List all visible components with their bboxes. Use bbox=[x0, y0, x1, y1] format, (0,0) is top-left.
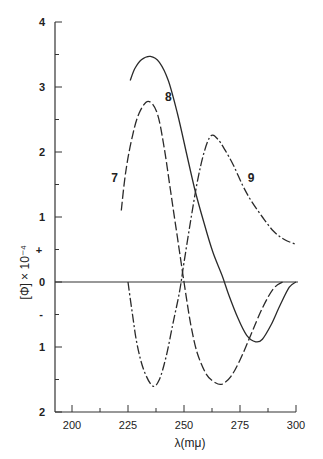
x-tick-label: 275 bbox=[231, 419, 249, 431]
y-tick-label: 1 bbox=[39, 211, 45, 223]
minus-sign: - bbox=[39, 308, 43, 320]
y-tick-label: 2 bbox=[39, 406, 45, 418]
y-tick-label: 3 bbox=[39, 81, 45, 93]
x-tick-label: 300 bbox=[287, 419, 305, 431]
curves bbox=[121, 56, 296, 386]
y-tick-label: 1 bbox=[39, 341, 45, 353]
y-tick-label: 4 bbox=[39, 16, 46, 28]
plus-sign: + bbox=[36, 244, 42, 256]
y-tick-label: 2 bbox=[39, 146, 45, 158]
curve-9 bbox=[128, 135, 296, 386]
x-tick-label: 225 bbox=[119, 419, 137, 431]
y-axis-label: [Φ] × 10⁻⁴ bbox=[18, 245, 32, 299]
curve-label-7: 7 bbox=[111, 171, 118, 185]
optical-rotatory-dispersion-chart: 4321012+-200225250275300λ(mμ)[Φ] × 10⁻⁴7… bbox=[0, 0, 323, 459]
x-tick-label: 250 bbox=[175, 419, 193, 431]
axes bbox=[55, 22, 298, 412]
curve-8 bbox=[130, 56, 296, 342]
curve-label-9: 9 bbox=[248, 171, 255, 185]
y-tick-label: 0 bbox=[39, 276, 45, 288]
x-tick-label: 200 bbox=[63, 419, 81, 431]
x-axis-label: λ(mμ) bbox=[175, 436, 206, 450]
curve-label-8: 8 bbox=[165, 90, 172, 104]
labels: 4321012+-200225250275300λ(mμ)[Φ] × 10⁻⁴7… bbox=[18, 16, 305, 450]
